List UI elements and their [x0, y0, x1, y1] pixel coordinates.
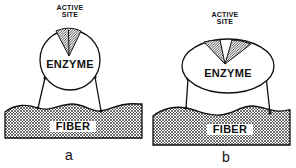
panel-a: ACTIVE SITE ENZYME FIBER a: [0, 0, 148, 168]
active-site-label-line2: SITE: [52, 11, 88, 18]
panel-b: ACTIVE SITE ENZYME FIBER b: [148, 0, 296, 168]
panel-a-drawing: [0, 0, 148, 168]
active-site-label-line1: ACTIVE: [207, 11, 243, 18]
active-site-label-line2: SITE: [207, 18, 243, 25]
enzyme-label: ENZYME: [40, 59, 100, 70]
fiber-label: FIBER: [207, 124, 253, 135]
enzyme-ellipse: [182, 39, 274, 93]
fiber-label: FIBER: [50, 121, 96, 132]
active-site-label-line1: ACTIVE: [52, 4, 88, 11]
panel-caption: b: [216, 150, 236, 164]
enzyme-label: ENZYME: [198, 68, 258, 79]
panel-caption: a: [59, 148, 79, 162]
panel-b-drawing: [148, 0, 296, 168]
